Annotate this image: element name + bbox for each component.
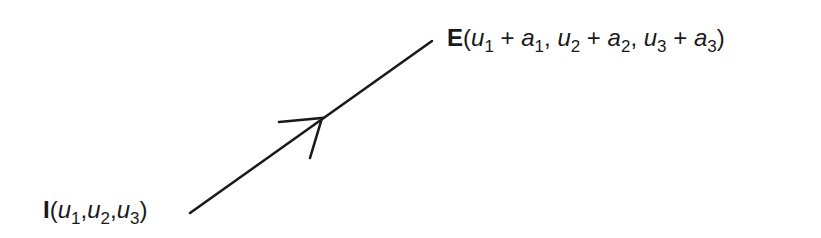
- offset-var: a: [608, 24, 621, 51]
- coord-sub: 3: [130, 209, 139, 228]
- coord-sub: 1: [484, 37, 493, 56]
- coord-var: u: [557, 24, 570, 51]
- plus-sign: +: [580, 24, 607, 51]
- offset-sub: 2: [621, 37, 630, 56]
- coord-var: u: [87, 196, 100, 223]
- close-paren: ): [717, 24, 725, 51]
- offset-var: a: [521, 24, 534, 51]
- coord-var: u: [471, 24, 484, 51]
- coord-var: u: [117, 196, 130, 223]
- coord-var: u: [644, 24, 657, 51]
- offset-sub: 3: [707, 37, 716, 56]
- end-point-label: E(u1 + a1, u2 + a2, u3 + a3): [447, 26, 725, 50]
- coord-sub: 3: [657, 37, 666, 56]
- open-paren: (: [50, 196, 58, 223]
- separator: ,: [630, 24, 643, 51]
- offset-var: a: [694, 24, 707, 51]
- open-paren: (: [463, 24, 471, 51]
- plus-sign: +: [494, 24, 521, 51]
- offset-sub: 1: [535, 37, 544, 56]
- end-point-name: E: [447, 24, 463, 51]
- plus-sign: +: [667, 24, 694, 51]
- start-point-label: I(u1,u2,u3): [43, 198, 148, 222]
- coord-sub: 1: [71, 209, 80, 228]
- coord-sub: 2: [571, 37, 580, 56]
- start-point-name: I: [43, 196, 50, 223]
- vector-line-segment: [190, 41, 432, 213]
- close-paren: ): [140, 196, 148, 223]
- separator: ,: [544, 24, 557, 51]
- coord-sub: 2: [101, 209, 110, 228]
- comma: ,: [110, 196, 117, 223]
- coord-var: u: [58, 196, 71, 223]
